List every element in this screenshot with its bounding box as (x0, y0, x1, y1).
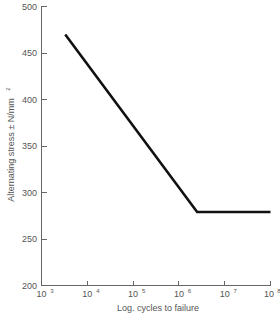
x-axis-title: Log. cycles to failure (117, 303, 199, 313)
x-tick-exponent: 8 (277, 288, 280, 294)
x-tick-label: 10 (128, 289, 138, 299)
x-tick-label: 10 (220, 289, 230, 299)
x-tick-label: 10 (264, 289, 274, 299)
y-tick-label: 250 (22, 234, 37, 244)
y-tick-label: 200 (22, 281, 37, 291)
x-tick-label: 10 (36, 289, 46, 299)
y-tick-label: 300 (22, 188, 37, 198)
y-tick-label: 350 (22, 141, 37, 151)
y-tick-label: 450 (22, 48, 37, 58)
x-tick-label: 10 (82, 289, 92, 299)
chart-figure: 500 450 400 350 300 250 200 10 3 10 4 10… (0, 0, 280, 317)
y-tick-label: 400 (22, 95, 37, 105)
y-tick-label: 500 (22, 2, 37, 12)
y-axis-title: Alternating stress ± N/mm 2 (5, 87, 16, 202)
x-tick-label: 10 (174, 289, 184, 299)
y-axis-title-text: Alternating stress ± N/mm (6, 98, 16, 201)
sn-curve-chart: 500 450 400 350 300 250 200 10 3 10 4 10… (0, 0, 280, 317)
